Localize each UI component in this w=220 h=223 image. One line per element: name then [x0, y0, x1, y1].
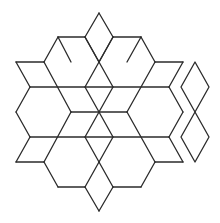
- tiling-edge: [99, 187, 113, 211]
- tiling-edge: [169, 87, 183, 112]
- tiling-edge: [141, 162, 155, 187]
- tiling-edge: [99, 162, 113, 187]
- tiling-edge: [169, 62, 183, 87]
- tiling-edge: [169, 137, 183, 162]
- tiling-edge: [169, 112, 183, 137]
- tiling-edge: [58, 37, 71, 62]
- tiling-edge: [44, 162, 58, 187]
- tiling-edge: [99, 137, 113, 162]
- tiling-edge: [16, 112, 30, 137]
- tiling-diagram: [0, 0, 220, 223]
- tiling-edge: [99, 13, 113, 37]
- separate-rhombus-pair: [181, 62, 209, 162]
- rhombus-upper: [181, 62, 209, 112]
- tiling-edge: [44, 37, 58, 62]
- hexagon-rhombus-star-figure: [16, 13, 183, 211]
- tiling-edge: [16, 137, 30, 162]
- tiling-edge: [16, 62, 30, 87]
- tiling-edge: [85, 162, 99, 187]
- tiling-edge: [16, 87, 30, 112]
- tiling-edge: [85, 13, 99, 37]
- tiling-edge: [127, 37, 141, 62]
- tiling-edge: [85, 137, 99, 162]
- tiling-edge: [141, 37, 155, 62]
- rhombus-lower: [181, 112, 209, 162]
- tiling-edge: [85, 187, 99, 211]
